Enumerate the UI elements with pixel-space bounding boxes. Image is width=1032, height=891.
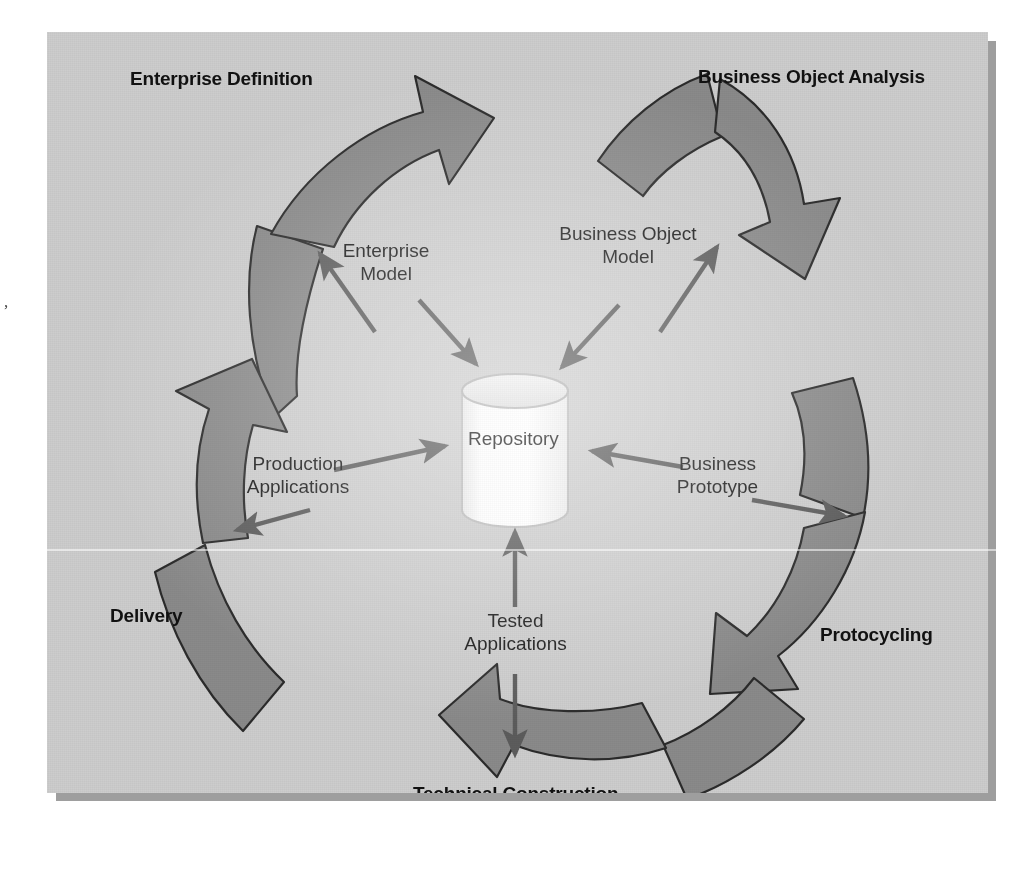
flow-label-production-applications: Production Applications [233,452,363,498]
stage-label-protocycling: Protocycling [820,624,933,646]
flow-label-line2: Applications [453,632,578,655]
flow-label-line1: Production [233,452,363,475]
flow-label-business-object-model: Business Object Model [549,222,707,268]
diagram-panel: Enterprise Definition Business Object An… [47,32,988,793]
flow-label-line1: Business Object [549,222,707,245]
repository-label: Repository [468,428,559,450]
swirl-technical-construction [439,664,804,793]
page-root: , [0,0,1032,891]
swirl-protocycling [710,378,868,694]
flow-label-line2: Model [549,245,707,268]
flow-label-line2: Prototype [655,475,780,498]
flow-label-line1: Enterprise [326,239,446,262]
flow-label-line2: Model [326,262,446,285]
stage-label-technical-construction: Technical Construction [413,783,618,793]
repository-cylinder [462,374,568,527]
scan-speck-artifact: , [4,296,11,307]
flow-label-tested-applications: Tested Applications [453,609,578,655]
swirl-delivery [155,359,287,731]
flow-label-line1: Tested [453,609,578,632]
flow-label-line2: Applications [233,475,363,498]
stage-label-business-object-analysis: Business Object Analysis [698,66,925,88]
cycle-diagram-svg [47,32,988,793]
flow-label-enterprise-model: Enterprise Model [326,239,446,285]
flow-label-business-prototype: Business Prototype [655,452,780,498]
flow-label-line1: Business [655,452,780,475]
stage-label-enterprise-definition: Enterprise Definition [130,68,313,90]
stage-label-delivery: Delivery [110,605,182,627]
